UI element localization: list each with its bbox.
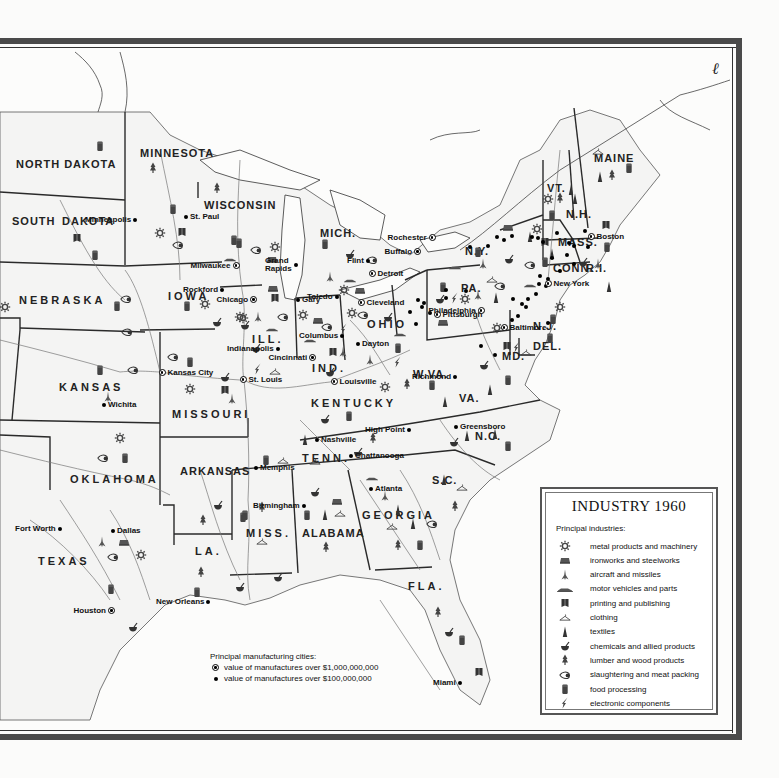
can-icon	[184, 354, 196, 366]
mortar-icon	[212, 497, 224, 509]
hanger-icon	[256, 534, 268, 546]
minor-city-marker	[502, 238, 506, 242]
state-label-miss: MISS.	[246, 527, 291, 539]
gear-icon	[154, 225, 166, 237]
spindle-icon	[490, 290, 502, 302]
city-label: Louisville	[340, 377, 377, 386]
city-detroit: Detroit	[369, 269, 404, 278]
city-label: Dallas	[117, 526, 141, 535]
book-icon	[71, 230, 83, 242]
legend-item-label: lumber and wood products	[590, 656, 684, 665]
legend-item-label: textiles	[590, 627, 615, 636]
spindle-icon	[484, 382, 496, 394]
legend-item-spindle: textiles	[554, 625, 615, 639]
city-greensboro: Greensboro	[454, 422, 505, 431]
city-memphis: Memphis	[254, 463, 295, 472]
state-label-la: LA.	[195, 545, 222, 557]
city-fort-worth: Fort Worth	[15, 524, 62, 533]
gear-icon	[199, 296, 211, 308]
minor-city-marker	[572, 244, 576, 248]
minor-city-marker	[486, 244, 490, 248]
ham-icon	[97, 450, 109, 462]
mortar-icon	[319, 411, 331, 423]
state-label-missouri: MISSOURI	[172, 408, 250, 420]
major-city-marker	[159, 369, 166, 376]
city-milwaukee: Milwaukee	[191, 261, 240, 270]
minor-city-marker	[586, 245, 590, 249]
minor-city-marker	[510, 234, 514, 238]
minor-city-marker	[294, 263, 298, 267]
legend-item-label: motor vehicles and parts	[590, 584, 677, 593]
state-label-fla: FLA.	[408, 580, 444, 592]
minor-city-marker	[558, 269, 562, 273]
ham-icon	[172, 237, 184, 249]
minor-city-marker	[220, 288, 224, 292]
legend-item-book: printing and publishing	[554, 596, 670, 610]
legend-item-label: clothing	[590, 613, 618, 622]
major-city-marker	[240, 376, 247, 383]
manufacturing-cities-legend: Principal manufacturing cities: value of…	[210, 652, 378, 683]
minor-city-marker	[567, 241, 571, 245]
can-icon	[502, 372, 514, 384]
minor-city-marker	[416, 298, 420, 302]
major-city-marker	[414, 248, 421, 255]
minor-city-marker	[495, 235, 499, 239]
mortar-icon	[324, 364, 336, 376]
legend-item-label: ironworks and steelworks	[590, 556, 680, 565]
legend-item-tree: lumber and wood products	[554, 653, 684, 667]
minor-city-marker	[349, 454, 353, 458]
city-label: Chicago	[217, 295, 249, 304]
legend-item-label: printing and publishing	[590, 599, 670, 608]
gear-icon	[184, 381, 196, 393]
city-toledo: Toledo	[307, 292, 339, 301]
state-label-arkansas: ARKANSAS	[180, 465, 250, 477]
minor-city-marker	[444, 296, 448, 300]
minor-city-marker	[356, 342, 360, 346]
mortar-icon	[503, 251, 515, 263]
can-icon	[94, 138, 106, 150]
minor-city-marker	[479, 344, 483, 348]
legend-item-label: chemicals and allied products	[590, 642, 695, 651]
spindle-icon	[319, 507, 331, 519]
city-label: Flint	[347, 256, 364, 265]
tree-icon	[392, 537, 404, 549]
city-philadelphia: Philadelphia	[429, 306, 485, 315]
hanger-icon	[386, 519, 398, 531]
mfg-legend-row-hundred-million: value of manufactures over $100,000,000	[212, 674, 378, 683]
major-city-marker	[233, 262, 240, 269]
city-label: Detroit	[378, 269, 404, 278]
minor-city-marker	[583, 229, 587, 233]
city-label: Philadelphia	[429, 306, 476, 315]
mortar-icon	[272, 569, 284, 581]
minor-city-marker	[565, 253, 569, 257]
legend-item-label: slaughtering and meat packing	[590, 670, 699, 679]
frame-border-top	[0, 38, 742, 44]
anvil-icon	[118, 534, 130, 546]
city-label: Kansas City	[168, 368, 214, 377]
minor-city-marker	[468, 245, 472, 249]
tree-icon	[197, 512, 209, 524]
mortar-icon	[478, 357, 490, 369]
spindle-icon	[554, 626, 576, 638]
gear-icon	[554, 540, 576, 552]
tree-icon	[606, 167, 618, 179]
city-label: Birmingham	[253, 501, 300, 510]
city-dallas: Dallas	[111, 526, 141, 535]
city-label: Cincinnati	[269, 353, 308, 362]
city-atlanta: Atlanta	[369, 484, 402, 493]
city-label: Toledo	[307, 292, 333, 301]
major-city-marker	[309, 354, 316, 361]
tree-icon	[147, 160, 159, 172]
car-icon	[394, 326, 406, 338]
frame-line-right	[732, 47, 733, 733]
minor-city-marker	[454, 425, 458, 429]
city-label: Houston	[74, 606, 106, 615]
major-city-marker	[331, 378, 338, 385]
can-icon	[414, 537, 426, 549]
gear-icon	[0, 299, 11, 311]
can-icon	[319, 236, 331, 248]
gear-icon	[135, 547, 147, 559]
legend-item-rocket: aircraft and missiles	[554, 568, 661, 582]
city-label: Cleveland	[367, 298, 405, 307]
can-icon	[233, 235, 245, 247]
